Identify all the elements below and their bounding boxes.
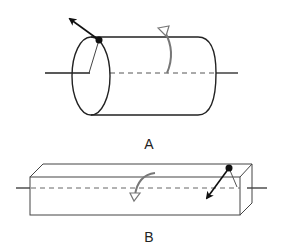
diagram-canvas [0, 0, 281, 251]
bar-right-face [240, 164, 252, 215]
figure-b-bar [16, 164, 267, 215]
velocity-arrow-icon [207, 168, 229, 198]
point-dot [226, 165, 233, 172]
point-dot [96, 37, 103, 44]
figure-label-a: A [144, 137, 153, 151]
figure-label-b: B [144, 230, 153, 244]
bar-top-face [30, 164, 252, 177]
rotation-arrow-icon [135, 173, 155, 195]
radius-line [89, 40, 99, 73]
rotation-arrow-icon [165, 32, 171, 73]
velocity-arrow-icon [70, 19, 99, 40]
rotation-arrowhead-icon [130, 193, 140, 201]
cylinder-end-ellipse [72, 37, 110, 115]
figure-a-cylinder [45, 19, 238, 115]
